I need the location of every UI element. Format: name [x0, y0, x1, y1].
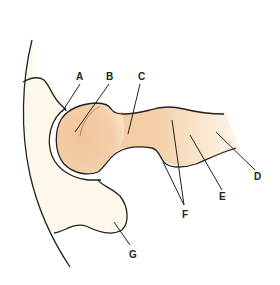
diagram-drawing: [0, 0, 280, 285]
hip-joint-diagram: A B C D E F G: [0, 0, 280, 285]
label-D: D: [254, 172, 261, 182]
label-B: B: [106, 72, 113, 82]
label-F: F: [182, 210, 188, 220]
label-E: E: [219, 192, 226, 202]
label-A: A: [76, 72, 83, 82]
label-C: C: [138, 72, 145, 82]
label-G: G: [129, 250, 137, 260]
